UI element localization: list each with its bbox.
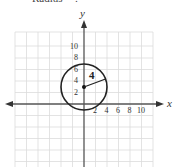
x-axis-right-arrow-icon (156, 101, 164, 107)
x-axis-left-arrow-icon (5, 101, 13, 107)
coordinate-graph: x y 2 4 6 8 10 10 8 6 4 2 4 (0, 0, 174, 167)
y-tick: 4 (74, 76, 78, 85)
x-tick: 8 (128, 106, 132, 115)
x-tick-labels: 2 4 6 8 10 (93, 106, 145, 115)
y-axis-label: y (79, 7, 85, 19)
x-tick: 6 (116, 106, 120, 115)
x-tick: 10 (137, 106, 145, 115)
x-axis-label: x (166, 97, 172, 109)
x-tick: 4 (105, 106, 109, 115)
axes (5, 20, 164, 167)
y-tick: 2 (74, 88, 78, 97)
radius-label: 4 (89, 69, 95, 81)
y-axis-arrow-icon (81, 20, 87, 28)
y-tick: 8 (74, 53, 78, 62)
y-tick: 10 (70, 42, 78, 51)
radius-segment (84, 79, 106, 87)
